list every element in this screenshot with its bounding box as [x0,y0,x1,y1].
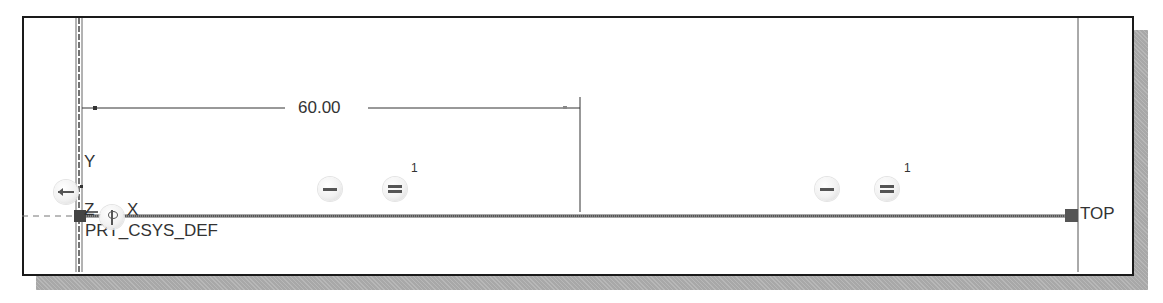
horizontal-arrow-icon[interactable] [54,180,78,204]
axis-label-x: X [127,201,138,218]
end-vertex[interactable] [1065,209,1078,222]
sketch-geometry [0,0,1163,303]
equal-constraint-index: 1 [904,162,911,174]
horizontal-constraint-icon[interactable] [815,177,839,201]
axis-label-z: Z [84,201,94,218]
datum-plane-label[interactable]: TOP [1080,205,1115,222]
vertical-arrow-icon[interactable] [100,205,124,229]
axis-label-y: Y [84,153,95,170]
equal-constraint-icon[interactable] [875,177,899,201]
equal-constraint-icon[interactable] [383,177,407,201]
horizontal-constraint-icon[interactable] [318,177,342,201]
equal-constraint-index: 1 [411,162,418,174]
dimension-value[interactable]: 60.00 [292,99,347,116]
